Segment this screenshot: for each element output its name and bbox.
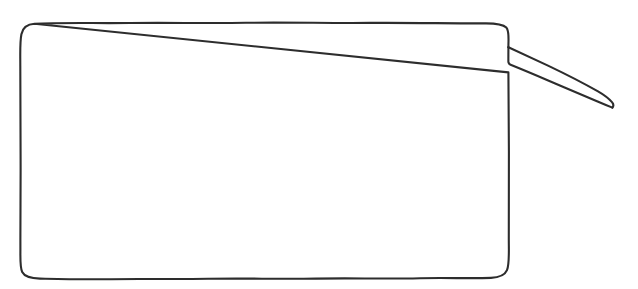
drawing-canvas [0, 0, 638, 289]
speech-balloon-illustration [0, 0, 638, 289]
